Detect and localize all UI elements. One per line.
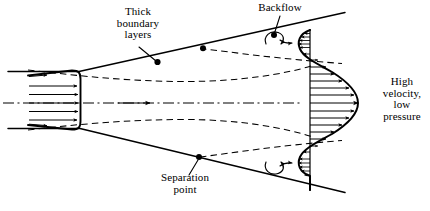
high-velocity-low-pressure-label: High velocity, low pressure (374, 76, 430, 122)
lower-swirl-arrow (278, 162, 283, 174)
thick-boundary-layers-leader (139, 47, 156, 61)
upper-separation-shear-layer (200, 49, 342, 64)
exit-forward-vectors-upper (304, 54, 355, 95)
thick-boundary-layers-label: Thick boundary layers (96, 6, 180, 41)
diffuser-separation-diagram: Thick boundary layers Backflow High velo… (0, 0, 430, 211)
backflow-dot (271, 32, 277, 38)
upper-boundary-layer-edge (28, 66, 313, 82)
inlet-velocity-profile (28, 71, 81, 130)
lower-separation-shear-layer (200, 141, 342, 158)
inlet-profile-curve (28, 71, 81, 130)
backflow-label: Backflow (245, 2, 315, 14)
inlet-velocity-vectors (29, 75, 78, 126)
exit-velocity-profile (299, 29, 358, 191)
upper-wall-dot (200, 45, 206, 51)
separation-point-dot (196, 154, 202, 160)
upper-swirl-arrow (278, 33, 283, 45)
lower-swirl-icon (265, 162, 278, 174)
exit-forward-vectors-lower (304, 111, 355, 152)
backflow-leader (275, 16, 281, 33)
separation-point-label: Separation point (141, 172, 229, 195)
thick-boundary-layer-dot (154, 59, 160, 65)
